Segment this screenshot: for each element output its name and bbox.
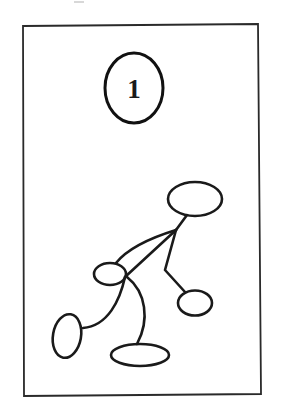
figure-canvas: 1 — [0, 0, 281, 413]
stick-figure — [49, 182, 222, 366]
left-foot-ellipse — [49, 312, 84, 360]
scan-artifact — [74, 1, 84, 3]
right-leg-line — [127, 277, 145, 344]
right-hand-ellipse — [178, 291, 212, 316]
panel-frame — [23, 24, 261, 396]
right-foot-ellipse — [111, 344, 169, 366]
right-arm-line — [165, 230, 185, 292]
left-hand-ellipse — [94, 263, 126, 285]
panel-number: 1 — [127, 74, 141, 104]
panel-number-badge: 1 — [105, 53, 163, 123]
head-ellipse — [168, 182, 222, 216]
neck-line — [176, 215, 187, 230]
